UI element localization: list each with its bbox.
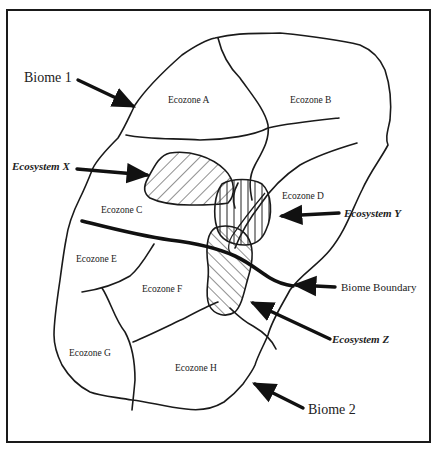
ecosystem-z-label: Ecosystem Z	[331, 333, 389, 345]
ecozone-e-label: Ecozone E	[76, 254, 117, 264]
ecosystem-x-label: Ecosystem X	[11, 160, 70, 172]
biome-1-label: Biome 1	[24, 70, 72, 85]
ecozone-b-label: Ecozone B	[290, 95, 331, 105]
ecozone-h-label: Ecozone H	[175, 363, 217, 373]
biome-2-label: Biome 2	[308, 402, 356, 417]
ecozone-d-label: Ecozone D	[282, 191, 324, 201]
diagram-canvas: Ecozone A Ecozone B Ecozone C Ecozone D …	[0, 0, 437, 453]
biome-ecozone-diagram: Ecozone A Ecozone B Ecozone C Ecozone D …	[0, 0, 437, 453]
ecozone-a-label: Ecozone A	[168, 95, 210, 105]
ecozone-c-label: Ecozone C	[101, 205, 142, 215]
biome-boundary-label: Biome Boundary	[341, 281, 417, 293]
ecozone-f-label: Ecozone F	[142, 284, 182, 294]
ecozone-g-label: Ecozone G	[69, 348, 111, 358]
biome-boundary-arrow	[296, 285, 335, 287]
ecosystem-y-label: Ecosystem Y	[343, 207, 402, 219]
